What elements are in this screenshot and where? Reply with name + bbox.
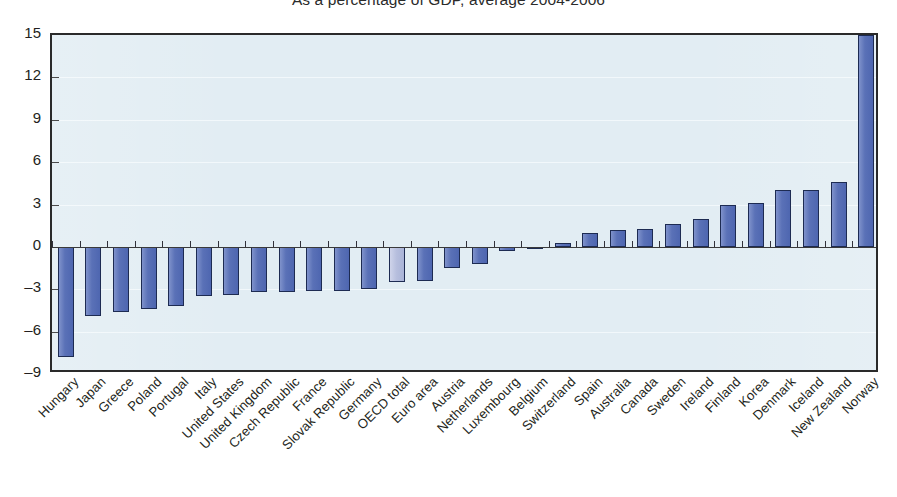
y-axis-labels: 15129630–3–6–9 [0, 0, 41, 497]
bar [334, 247, 350, 291]
bar [803, 190, 819, 247]
y-tick-label: 3 [33, 194, 41, 211]
bar [85, 247, 101, 316]
y-tick-label: –6 [24, 321, 41, 338]
chart-figure: As a percentage of GDP, average 2004-200… [0, 0, 897, 497]
bar [196, 247, 212, 296]
gridline [52, 77, 876, 78]
bar [637, 229, 653, 247]
bar [251, 247, 267, 292]
y-tick-label: 6 [33, 151, 41, 168]
y-tick-mark [52, 162, 59, 163]
bar [168, 247, 184, 306]
bar [582, 233, 598, 247]
bar [858, 35, 874, 247]
y-tick-label: 15 [24, 24, 41, 41]
bar [775, 190, 791, 247]
chart-title: As a percentage of GDP, average 2004-200… [0, 0, 897, 9]
bar [389, 247, 405, 282]
y-tick-mark [52, 120, 59, 121]
y-tick-mark [52, 77, 59, 78]
y-tick-label: 0 [33, 236, 41, 253]
gridline [52, 120, 876, 121]
bar [113, 247, 129, 312]
bar [58, 247, 74, 357]
bar [720, 205, 736, 247]
bar [306, 247, 322, 291]
y-tick-mark [52, 205, 59, 206]
x-axis-labels: HungaryJapanGreecePolandPortugalItalyUni… [50, 374, 878, 497]
plot-area [50, 33, 878, 372]
zero-baseline [52, 247, 876, 248]
y-tick-label: 12 [24, 66, 41, 83]
y-tick-label: –9 [24, 363, 41, 380]
gridline [52, 162, 876, 163]
y-tick-label: –3 [24, 278, 41, 295]
bar [223, 247, 239, 295]
bar [472, 247, 488, 264]
bar [610, 230, 626, 247]
bar [417, 247, 433, 281]
bar [748, 203, 764, 247]
bar [279, 247, 295, 292]
bar [141, 247, 157, 309]
bar [444, 247, 460, 268]
bar [361, 247, 377, 289]
bar [665, 224, 681, 247]
gridline [52, 332, 876, 333]
y-tick-label: 9 [33, 109, 41, 126]
bar [831, 182, 847, 247]
bar [693, 219, 709, 247]
